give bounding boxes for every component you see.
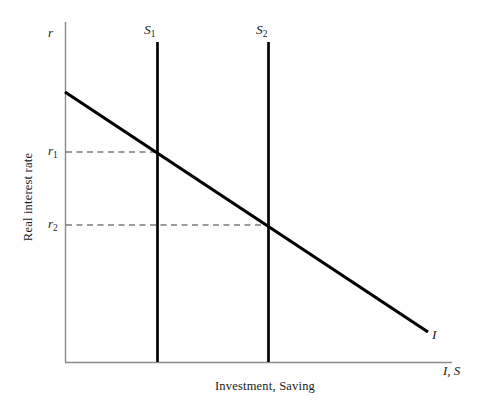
curve-label-s2: S2 <box>256 23 268 39</box>
chart-canvas <box>0 0 492 407</box>
investment-curve <box>65 92 428 332</box>
investment-saving-chart: r I, S S1 S2 I r1 r2 Real interest rate … <box>0 0 492 407</box>
y-axis-variable-label: r <box>48 26 53 39</box>
x-axis-title: Investment, Saving <box>215 380 315 393</box>
curve-label-s2-subscript: 2 <box>263 29 268 39</box>
y-tick-label-r1-subscript: 1 <box>53 150 58 160</box>
x-axis-variable-label: I, S <box>443 364 460 377</box>
curve-label-s1-main: S <box>144 22 151 37</box>
y-tick-label-r1: r1 <box>48 144 58 160</box>
curve-label-s1: S1 <box>144 23 156 39</box>
y-tick-label-r2-subscript: 2 <box>53 223 58 233</box>
curve-label-s2-main: S <box>256 22 263 37</box>
y-tick-label-r2: r2 <box>48 217 58 233</box>
curve-label-s1-subscript: 1 <box>151 29 156 39</box>
curve-label-i: I <box>432 328 437 342</box>
